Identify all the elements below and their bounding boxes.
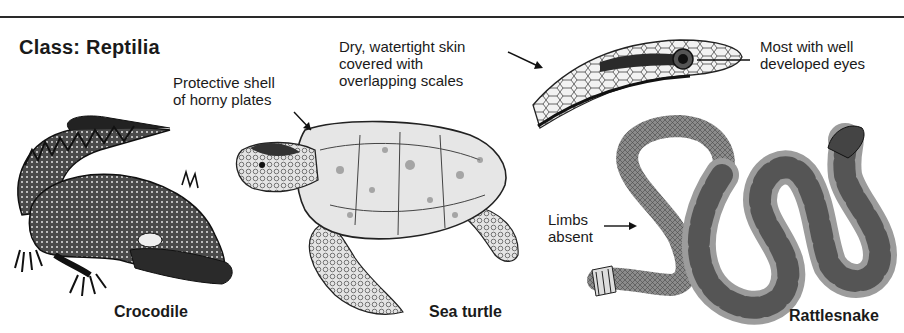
limbs-annotation: Limbs absent xyxy=(548,211,593,245)
rattlesnake-caption: Rattlesnake xyxy=(789,307,879,325)
sea-turtle-caption: Sea turtle xyxy=(429,303,502,321)
rattlesnake-illustration xyxy=(592,126,880,308)
eyes-annotation: Most with well developed eyes xyxy=(760,38,865,72)
sea-turtle-illustration xyxy=(237,122,519,315)
snake-head-illustration xyxy=(533,40,742,128)
shell-annotation: Protective shell of horny plates xyxy=(173,74,275,108)
crocodile-illustration xyxy=(15,116,232,296)
skin-annotation: Dry, watertight skin covered with overla… xyxy=(339,38,465,89)
crocodile-caption: Crocodile xyxy=(114,303,188,321)
